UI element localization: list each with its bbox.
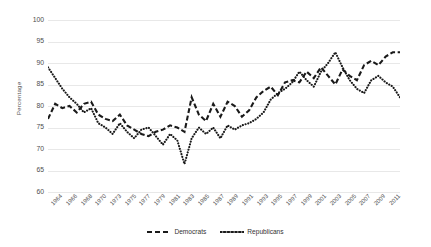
y-tick-label: 65 (22, 167, 44, 174)
chart-legend: Democrats Republicans (0, 229, 431, 236)
legend-label-democrats: Democrats (174, 229, 206, 236)
series-lines (48, 20, 400, 192)
republicans-line-swatch (220, 229, 244, 235)
series-line-democrats (48, 52, 400, 136)
y-tick-label: 100 (22, 17, 44, 24)
legend-label-republicans: Republicans (247, 229, 283, 236)
democrats-line-swatch (147, 229, 171, 235)
plot-area (48, 20, 400, 192)
y-tick-label: 75 (22, 124, 44, 131)
y-tick-label: 70 (22, 146, 44, 153)
x-axis-tick-labels: 1964196619681970197319751977197919811983… (48, 193, 400, 225)
chart-container: Percentage 1009590858075706560 196419661… (0, 0, 431, 247)
y-tick-label: 80 (22, 103, 44, 110)
legend-item-republicans[interactable]: Republicans (220, 229, 283, 236)
legend-item-democrats[interactable]: Democrats (147, 229, 206, 236)
y-tick-label: 85 (22, 81, 44, 88)
y-tick-label: 95 (22, 38, 44, 45)
y-tick-label: 90 (22, 60, 44, 67)
y-tick-label: 60 (22, 189, 44, 196)
y-axis-title: Percentage (15, 64, 22, 134)
